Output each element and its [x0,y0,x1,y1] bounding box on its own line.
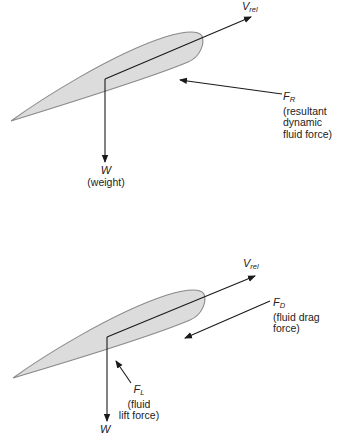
v-rel-vector-bottom [107,276,255,337]
resultant-force-vector [180,80,282,94]
top-diagram [11,17,282,162]
w-symbol: W [87,165,124,177]
v-rel-label-bottom: Vrel [243,258,259,273]
f-symbol: F [283,90,290,102]
weight-label-top: W (weight) [87,165,124,188]
v-rel-vector-top [105,17,251,79]
lift-desc-2: lift force) [119,410,159,422]
weight-desc: (weight) [87,177,124,189]
resultant-desc-3: fluid force) [283,129,332,141]
rel-subscript: rel [249,5,257,14]
v-rel-label-top: Vrel [242,1,258,16]
l-subscript: L [140,388,144,397]
f-symbol: F [273,296,280,308]
airfoil-top [11,32,203,121]
resultant-desc-2: dynamic [283,117,332,129]
d-subscript: D [280,301,285,310]
w-symbol: W [100,423,110,435]
drag-desc-2: force) [273,323,320,335]
lift-force-label: FL (fluid lift force) [119,384,159,422]
weight-label-bottom: W [100,424,110,436]
r-subscript: R [290,95,295,104]
drag-force-label: FD (fluid drag force) [273,297,320,335]
airfoil-bottom [13,290,205,378]
resultant-force-label: FR (resultant dynamic fluid force) [283,91,332,140]
rel-subscript: rel [250,262,258,271]
airfoil-force-diagram [0,0,340,443]
lift-force-vector [116,361,131,383]
